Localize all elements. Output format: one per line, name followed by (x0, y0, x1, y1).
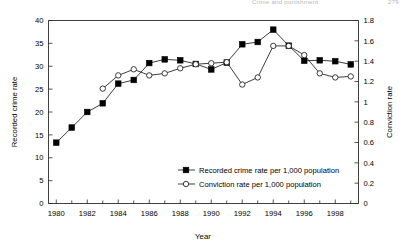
x-tick-label: 1994 (265, 209, 282, 218)
right-tick-label: 0 (364, 199, 368, 208)
left-axis-ticks: 0510152025303540 (35, 16, 52, 208)
left-tick-label: 25 (35, 85, 43, 94)
data-point-marker (302, 52, 307, 57)
left-tick-label: 20 (35, 108, 43, 117)
left-tick-label: 40 (35, 16, 43, 25)
x-tick-label: 1980 (48, 209, 65, 218)
x-tick-label: 1992 (234, 209, 251, 218)
x-tick-label: 1988 (172, 209, 189, 218)
legend-entry-conviction-rate: Conviction rate per 1,000 population (178, 180, 321, 189)
x-tick-label: 1986 (141, 209, 158, 218)
legend-marker-filled-square (183, 167, 189, 173)
data-point-marker (348, 62, 354, 68)
chart-axes (49, 21, 359, 204)
x-axis-ticks: 1980198219841986198819901992199419961998 (48, 200, 351, 218)
running-head-page-number: 279 (388, 0, 399, 5)
x-tick-label: 1998 (327, 209, 344, 218)
series-line-1 (103, 46, 351, 89)
right-tick-label: 0.8 (364, 118, 375, 127)
right-tick-label: 0.4 (364, 159, 375, 168)
series-conviction-rate (100, 43, 353, 91)
right-tick-label: 1 (364, 98, 368, 107)
line-chart: 0510152025303540 00.20.40.60.811.21.41.6… (0, 0, 406, 245)
data-point-marker (255, 75, 260, 80)
left-tick-label: 15 (35, 131, 43, 140)
y2-axis-title: Conviction rate (385, 86, 394, 138)
right-tick-label: 1.4 (364, 57, 375, 66)
right-tick-label: 1.2 (364, 77, 375, 86)
running-head: Crime and punishment 279 (0, 0, 406, 7)
data-point-marker (100, 101, 106, 107)
data-point-marker (333, 75, 338, 80)
data-point-marker (209, 61, 214, 66)
data-point-marker (271, 43, 276, 48)
right-tick-label: 1.8 (364, 16, 375, 25)
data-point-marker (131, 67, 136, 72)
series-line-0 (56, 30, 351, 143)
data-point-marker (178, 66, 183, 71)
left-tick-label: 35 (35, 39, 43, 48)
right-tick-label: 0.6 (364, 138, 375, 147)
data-point-marker (131, 77, 137, 83)
legend-marker-open-circle (183, 181, 188, 186)
data-point-marker (348, 74, 353, 79)
data-point-marker (146, 60, 152, 66)
data-point-marker (301, 58, 307, 64)
data-point-marker (115, 81, 121, 87)
x-tick-label: 1990 (203, 209, 220, 218)
y-axis-title: Recorded crime rate (10, 77, 19, 148)
data-point-marker (286, 43, 291, 48)
data-point-marker (255, 39, 261, 45)
x-axis-title: Year (195, 232, 211, 241)
data-point-marker (239, 41, 245, 47)
data-point-marker (317, 71, 322, 76)
legend-label-conviction-rate: Conviction rate per 1,000 population (199, 180, 321, 189)
running-head-title: Crime and punishment (252, 0, 318, 5)
data-point-marker (317, 58, 323, 64)
chart-series-layer (53, 27, 353, 146)
data-point-marker (208, 67, 214, 73)
left-tick-label: 10 (35, 153, 43, 162)
data-point-marker (69, 125, 75, 131)
data-point-marker (177, 58, 183, 64)
figure-container: Crime and punishment 279 051015202530354… (0, 0, 406, 245)
data-point-marker (116, 73, 121, 78)
data-point-marker (100, 86, 105, 91)
left-tick-label: 30 (35, 62, 43, 71)
left-tick-label: 5 (39, 176, 43, 185)
data-point-marker (147, 73, 152, 78)
data-point-marker (84, 109, 90, 115)
series-recorded-crime-rate (53, 27, 353, 146)
legend-label-recorded-crime-rate: Recorded crime rate per 1,000 population (199, 166, 339, 175)
data-point-marker (332, 58, 338, 64)
right-tick-label: 0.2 (364, 179, 375, 188)
right-tick-label: 1.6 (364, 37, 375, 46)
data-point-marker (193, 62, 198, 67)
x-tick-label: 1984 (110, 209, 127, 218)
right-axis-ticks: 00.20.40.60.811.21.41.61.8 (355, 16, 375, 208)
data-point-marker (53, 140, 59, 146)
legend-entry-recorded-crime-rate: Recorded crime rate per 1,000 population (178, 166, 339, 175)
data-point-marker (240, 82, 245, 87)
chart-legend: Recorded crime rate per 1,000 population… (178, 166, 339, 189)
x-tick-label: 1996 (296, 209, 313, 218)
data-point-marker (162, 57, 168, 63)
data-point-marker (270, 27, 276, 33)
x-tick-label: 1982 (79, 209, 96, 218)
left-tick-label: 0 (39, 199, 43, 208)
data-point-marker (162, 71, 167, 76)
data-point-marker (224, 59, 229, 64)
